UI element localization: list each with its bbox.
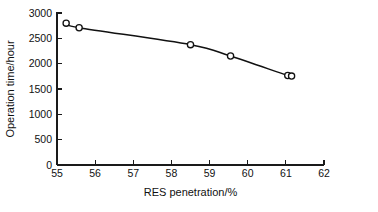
y-tick-label-3000: 3000 (29, 7, 53, 19)
data-point-marker (187, 42, 193, 48)
x-axis-title: RES penetration/% (144, 186, 238, 198)
x-axis-tick-labels: 55 56 57 58 59 60 61 62 (51, 167, 330, 179)
y-axis-title: Operation time/hour (4, 40, 16, 138)
series-line-operation-time (66, 23, 294, 77)
y-axis-ticks (57, 13, 62, 165)
y-tick-label-500: 500 (34, 133, 52, 145)
x-tick-label-55: 55 (51, 167, 63, 179)
x-tick-label-59: 59 (204, 167, 216, 179)
y-axis-tick-labels: 0 500 1000 1500 2000 2500 3000 (29, 7, 53, 171)
x-tick-label-62: 62 (318, 167, 330, 179)
chart-figure: 0 500 1000 1500 2000 2500 3000 Operation… (0, 0, 378, 212)
x-tick-label-56: 56 (89, 167, 101, 179)
y-tick-label-1000: 1000 (29, 108, 53, 120)
y-tick-label-2500: 2500 (29, 32, 53, 44)
data-point-marker (288, 73, 294, 79)
x-tick-label-57: 57 (127, 167, 139, 179)
y-axis-group: 0 500 1000 1500 2000 2500 3000 Operation… (4, 7, 62, 171)
y-tick-label-2000: 2000 (29, 57, 53, 69)
y-tick-label-1500: 1500 (29, 83, 53, 95)
series-markers (63, 20, 295, 79)
x-axis-group: 55 56 57 58 59 60 61 62 RES penetration/… (51, 160, 330, 198)
x-tick-label-61: 61 (280, 167, 292, 179)
x-tick-label-60: 60 (242, 167, 254, 179)
series-group (63, 20, 295, 79)
data-point-marker (76, 25, 82, 31)
x-tick-label-58: 58 (166, 167, 178, 179)
data-point-marker (63, 20, 69, 26)
data-point-marker (227, 53, 233, 59)
line-chart-canvas: 0 500 1000 1500 2000 2500 3000 Operation… (0, 0, 378, 212)
x-axis-ticks (57, 160, 324, 165)
